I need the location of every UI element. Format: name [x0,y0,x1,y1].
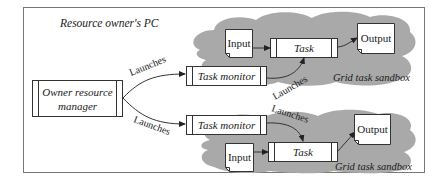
top-input-document: Input [226,30,253,58]
bottom-input-label: Input [228,151,251,163]
bottom-output-document: Output [355,115,391,145]
bottom-task-label: Task [293,146,314,158]
top-sandbox-label: Grid task sandbox [333,72,410,83]
top-task-label: Task [294,42,315,54]
bottom-task-monitor-box: Task monitor [187,116,267,135]
frame-title: Resource owner's PC [59,17,159,29]
top-task-monitor-label: Task monitor [198,70,256,82]
top-task-monitor-box: Task monitor [187,67,267,86]
bottom-task-box: Task [269,143,338,162]
owner-resource-manager-box: Owner resource manager [33,81,123,117]
top-output-label: Output [361,32,392,44]
bottom-task-monitor-label: Task monitor [198,119,256,131]
bottom-output-label: Output [357,123,388,135]
bottom-input-document: Input [226,144,254,172]
top-task-box: Task [271,39,338,58]
owner-manager-line2: manager [58,100,98,112]
diagram-canvas: Resource owner's PC Owner resource manag… [0,0,446,189]
owner-manager-line1: Owner resource [42,86,112,98]
bottom-sandbox-label: Grid task sandbox [335,161,412,172]
top-output-document: Output [358,24,395,54]
top-input-label: Input [227,37,250,49]
